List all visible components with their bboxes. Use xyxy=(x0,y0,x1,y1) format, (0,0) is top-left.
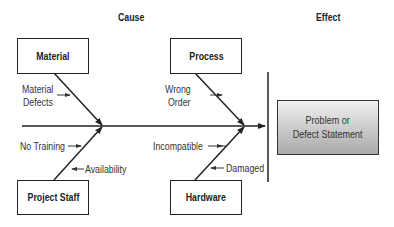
effect-header: Effect xyxy=(316,12,340,23)
effect-line1: Problem or xyxy=(306,115,350,126)
category-material-label: Material xyxy=(36,51,69,62)
cause-material-defects-line2: Defects xyxy=(23,96,53,109)
bone-material xyxy=(54,73,102,125)
cause-wrong-order-line2: Order xyxy=(168,96,190,109)
category-project-staff: Project Staff xyxy=(17,180,89,215)
category-process: Process xyxy=(170,38,242,74)
bone-process xyxy=(195,73,244,125)
category-project-staff-label: Project Staff xyxy=(27,192,79,203)
cause-availability: Availability xyxy=(85,163,126,176)
cause-material-defects-line1: Material xyxy=(22,83,53,96)
cause-incompatible: Incompatible xyxy=(153,140,203,153)
cause-header: Cause xyxy=(118,12,144,23)
effect-box: Problem or Defect Statement xyxy=(277,100,379,155)
cause-damaged: Damaged xyxy=(226,162,264,175)
category-process-label: Process xyxy=(189,51,223,62)
cause-no-training: No Training xyxy=(20,140,65,153)
category-hardware: Hardware xyxy=(170,180,242,215)
cause-wrong-order-line1: Wrong xyxy=(165,83,191,96)
category-material: Material xyxy=(17,38,89,74)
effect-line2: Defect Statement xyxy=(293,129,363,140)
category-hardware-label: Hardware xyxy=(186,192,226,203)
